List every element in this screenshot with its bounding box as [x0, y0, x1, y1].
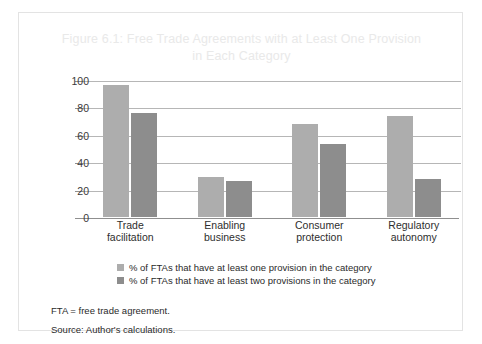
chart-legend: % of FTAs that have at least one provisi…	[117, 261, 375, 287]
figure-title: Figure 6.1: Free Trade Agreements with a…	[49, 31, 434, 65]
bar	[292, 124, 318, 217]
legend-swatch-icon-series-one	[117, 264, 124, 271]
bar-series-layer	[83, 81, 461, 218]
bar-group	[272, 81, 367, 218]
bar-group	[178, 81, 273, 218]
figure-frame: Figure 6.1: Free Trade Agreements with a…	[18, 12, 463, 331]
legend-item-series-one: % of FTAs that have at least one provisi…	[117, 261, 375, 274]
legend-label-series-one: % of FTAs that have at least one provisi…	[129, 262, 372, 273]
bar-group	[83, 81, 178, 218]
bar	[103, 85, 129, 217]
chart-plot-area: 020406080100	[69, 81, 461, 218]
note-source: Source: Author's calculations.	[51, 320, 175, 339]
x-axis-category-labels: Trade facilitationEnabling businessConsu…	[83, 219, 461, 251]
bar	[131, 113, 157, 217]
figure-notes: FTA = free trade agreement. Source: Auth…	[51, 301, 175, 339]
bar-group	[367, 81, 462, 218]
legend-swatch-icon-series-two	[117, 277, 124, 284]
x-axis-label: Enabling business	[178, 219, 273, 243]
legend-item-series-two: % of FTAs that have at least two provisi…	[117, 274, 375, 287]
bar	[387, 116, 413, 217]
bar	[226, 181, 252, 217]
bar	[415, 179, 441, 217]
bar	[198, 177, 224, 217]
x-axis-label: Trade facilitation	[83, 219, 178, 243]
legend-label-series-two: % of FTAs that have at least two provisi…	[129, 275, 375, 286]
bar	[320, 144, 346, 217]
note-abbreviation: FTA = free trade agreement.	[51, 301, 175, 320]
x-axis-label: Consumer protection	[272, 219, 367, 243]
x-axis-label: Regulatory autonomy	[367, 219, 462, 243]
